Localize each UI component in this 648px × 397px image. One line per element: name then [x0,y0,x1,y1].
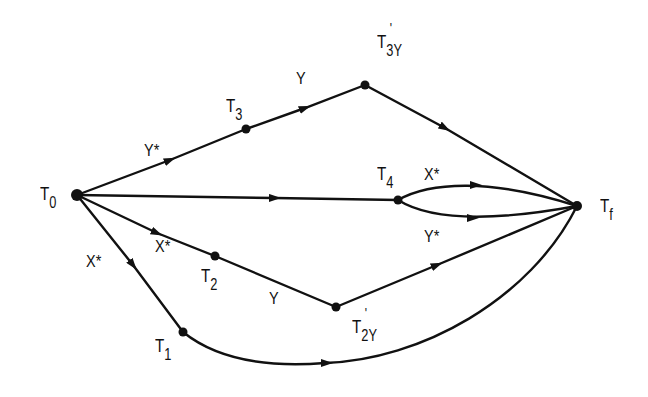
label-t3-sub: 3 [235,106,242,123]
label-t2y-prime: ' [365,305,367,320]
label-t3y: T'3Y [377,32,402,51]
label-t3y-main: T [377,31,386,52]
label-t0: T0 [40,184,56,203]
label-t2y-main: T [352,316,361,337]
arrowhead-t4-tf-y [467,214,479,222]
edge-label-t0-t2: X* [155,238,170,255]
label-t1-main: T [155,335,164,356]
node-t0 [71,189,83,201]
edge-label-t0-t3: Y* [144,142,159,159]
edge-t0-t4 [77,195,398,200]
label-t0-sub: 0 [49,194,56,211]
node-tf [572,201,582,211]
arrowhead-t1-tf [321,359,333,367]
node-t3y [361,81,370,90]
edge-label-t3-t3y: Y [296,70,306,87]
label-t3y-sub: 3Y [386,42,402,59]
label-t1-sub: 1 [164,346,171,363]
label-t2-sub: 2 [210,276,217,293]
label-tf-main: T [600,195,609,216]
label-t4: T4 [377,164,393,183]
label-t4-sub: 4 [386,174,393,191]
arrowhead-t4-tf-x [470,181,482,189]
node-t1 [179,328,188,337]
edge-label-t4-tf-y: Y* [424,228,439,245]
edge-t0-t3 [77,129,246,195]
label-t2-main: T [201,265,210,286]
label-t2y-sub: 2Y [361,327,377,344]
label-t2y: T'2Y [352,317,377,336]
label-t4-main: T [377,163,386,184]
node-t2 [211,252,220,261]
edge-label-t2-t2y: Y [269,290,279,307]
edge-t4-tf-y [398,200,577,217]
label-t3y-prime: ' [390,20,392,35]
label-t2: T2 [201,266,217,285]
node-t2y [332,303,341,312]
edge-t3-t3y [246,85,365,129]
node-t4 [394,196,403,205]
edge-t2y-tf [336,206,577,307]
label-tf: Tf [600,196,613,215]
label-tf-sub: f [609,206,613,223]
node-t3 [242,125,251,134]
edge-label-t0-t1: X* [86,253,101,270]
label-t0-main: T [40,183,49,204]
transition-diagram [0,0,648,397]
label-t3-main: T [226,95,235,116]
label-t3: T3 [226,96,242,115]
edge-label-t4-tf-x: X* [424,166,439,183]
label-t1: T1 [155,336,171,355]
edge-t0-t2 [77,195,215,256]
